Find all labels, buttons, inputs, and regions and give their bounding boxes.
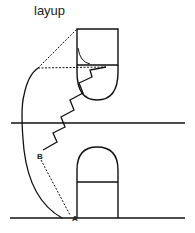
bottom-key <box>77 147 118 218</box>
layup-play-diagram: B A <box>0 0 195 233</box>
pass-line-a-to-b <box>41 160 70 215</box>
point-a-label: A <box>72 214 78 223</box>
pass-line-across <box>38 67 106 68</box>
point-b-label: B <box>37 152 43 161</box>
top-key <box>77 29 118 100</box>
dribble-path <box>43 67 106 150</box>
pass-line-to-basket <box>38 29 77 68</box>
